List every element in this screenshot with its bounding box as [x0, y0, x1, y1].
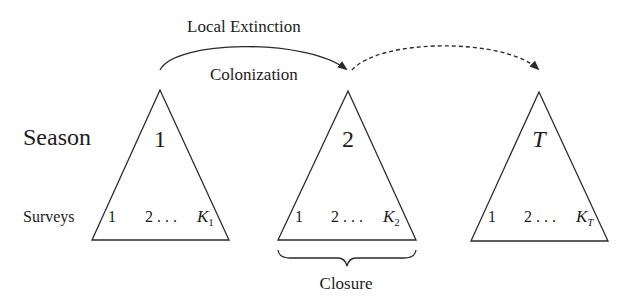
surveys-row-label: Surveys: [23, 208, 75, 226]
survey-first: 1: [108, 208, 116, 225]
survey-middle: 2 . . .: [145, 208, 177, 225]
local-extinction-label: Local Extinction: [187, 17, 301, 36]
survey-middle: 2 . . .: [331, 208, 363, 225]
season-number: T: [532, 126, 547, 152]
season-1-triangle: 1 1 2 . . . K1: [92, 90, 229, 240]
diagram-canvas: Local Extinction Colonization Season Sur…: [0, 0, 623, 301]
season-number: 2: [342, 126, 354, 152]
survey-first: 1: [295, 208, 303, 225]
season-2-triangle: 2 1 2 . . . K2: [278, 91, 416, 240]
survey-first: 1: [488, 208, 496, 225]
survey-last: K2: [382, 207, 400, 228]
survey-middle: 2 . . .: [524, 208, 556, 225]
season-number: 1: [154, 126, 166, 152]
season-row-label: Season: [23, 124, 91, 150]
survey-last: K1: [196, 207, 214, 228]
survey-last: KT: [575, 207, 594, 228]
closure-brace: [278, 250, 416, 266]
colonization-label: Colonization: [210, 65, 298, 84]
closure-label: Closure: [320, 274, 373, 293]
transition-arrow-dashed: [352, 46, 538, 70]
robust-design-diagram: Local Extinction Colonization Season Sur…: [0, 0, 623, 301]
season-t-triangle: T 1 2 . . . KT: [471, 92, 608, 241]
